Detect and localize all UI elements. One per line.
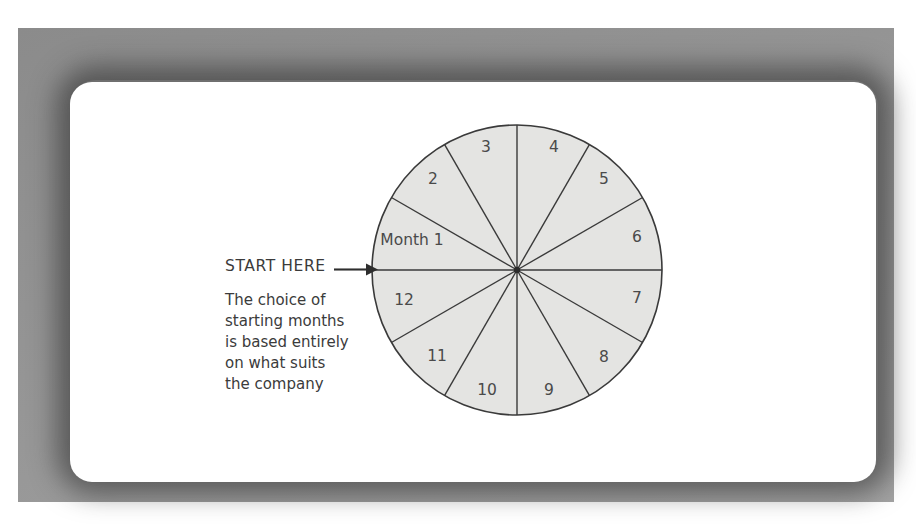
description-line: the company — [225, 374, 375, 395]
figure-frame — [18, 28, 894, 502]
description-line: The choice of — [225, 290, 375, 311]
figure-panel — [70, 82, 876, 482]
description-line: is based entirely — [225, 332, 375, 353]
start-here-description: The choice ofstarting monthsis based ent… — [225, 290, 375, 395]
description-line: starting months — [225, 311, 375, 332]
start-here-label: START HERE — [225, 257, 326, 275]
description-line: on what suits — [225, 353, 375, 374]
